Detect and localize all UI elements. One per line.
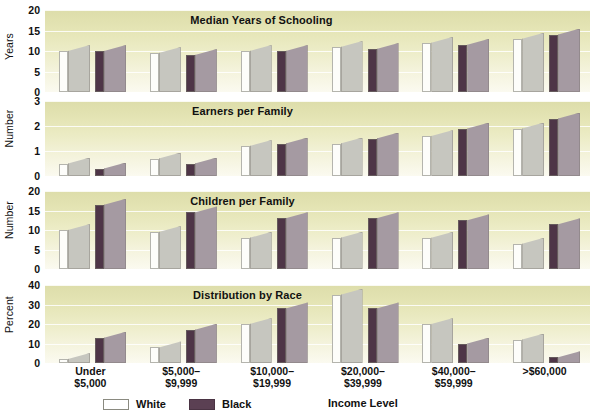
bar-side-face — [467, 214, 489, 269]
y-tick-label: 40 — [28, 280, 40, 291]
y-axis-title-3: Number — [0, 191, 18, 269]
bar-black — [458, 45, 489, 92]
bar-front-face — [332, 238, 341, 269]
x-label-line-2: $5,000 — [45, 378, 136, 390]
gridline — [45, 191, 590, 192]
bar-black — [95, 205, 126, 269]
bar-front-face — [150, 232, 159, 269]
bar-black — [95, 169, 126, 177]
legend-label-white: White — [136, 398, 166, 410]
bar-side-face — [104, 163, 126, 177]
bar-white — [422, 43, 453, 92]
bar-black — [277, 218, 308, 269]
panel-title-2: Earners per Family — [45, 105, 590, 117]
bar-white — [422, 324, 453, 363]
x-axis-label-6: >$60,000 — [499, 366, 590, 378]
y-tick-label: 1 — [34, 146, 40, 157]
bar-side-face — [558, 113, 580, 177]
bar-black — [549, 35, 580, 92]
bar-white — [59, 164, 90, 177]
y-tick-label: 5 — [34, 244, 40, 255]
bar-front-face — [241, 51, 250, 92]
x-label-line-1: >$60,000 — [523, 365, 567, 377]
gridline — [45, 10, 590, 11]
bar-white — [59, 230, 90, 269]
x-label-line-2: $19,999 — [227, 378, 318, 390]
bar-front-face — [458, 220, 467, 269]
bar-side-face — [104, 45, 126, 92]
bar-front-face — [368, 139, 377, 177]
x-axis-category-labels: Under$5,000$5,000–$9,999$10,000–$19,999$… — [45, 366, 590, 396]
gridline — [45, 101, 590, 102]
bar-white — [332, 295, 363, 363]
chart-legend: WhiteBlack — [103, 396, 267, 412]
bar-side-face — [522, 123, 544, 177]
panel-2: Number3210Earners per Family — [0, 101, 590, 176]
bar-side-face — [159, 153, 181, 177]
x-label-line-1: Under — [75, 365, 105, 377]
bar-front-face — [513, 39, 522, 92]
bar-black — [277, 308, 308, 363]
bar-side-face — [341, 138, 363, 177]
bar-white — [332, 47, 363, 92]
bar-side-face — [341, 232, 363, 269]
bar-black — [549, 224, 580, 269]
y-axis-title-4: Percent — [0, 285, 18, 363]
plot-area-2: Earners per Family — [45, 101, 590, 176]
bar-white — [241, 324, 272, 363]
bar-black — [95, 338, 126, 363]
y-tick-label: 2 — [34, 121, 40, 132]
bar-front-face — [95, 169, 104, 177]
bar-side-face — [431, 37, 453, 92]
y-tick-label: 10 — [28, 225, 40, 236]
x-axis-label-5: $40,000–$59,999 — [408, 366, 499, 389]
bar-front-face — [513, 244, 522, 269]
bar-black — [458, 220, 489, 269]
bar-front-face — [422, 43, 431, 92]
bar-front-face — [458, 45, 467, 92]
bar-side-face — [159, 226, 181, 269]
bar-front-face — [422, 238, 431, 269]
bar-black — [186, 212, 217, 269]
panel-4: Percent403020100Distribution by Race — [0, 285, 590, 363]
bar-black — [458, 129, 489, 177]
gridline — [45, 305, 590, 306]
bar-side-face — [286, 45, 308, 92]
x-label-line-1: $10,000– — [250, 365, 294, 377]
x-axis-label-1: Under$5,000 — [45, 366, 136, 389]
x-axis-title: Income Level — [328, 397, 398, 409]
plot-area-3: Children per Family — [45, 191, 590, 269]
bar-side-face — [431, 232, 453, 269]
bar-black — [95, 51, 126, 92]
bar-front-face — [277, 308, 286, 363]
bar-white — [150, 159, 181, 177]
bar-black — [368, 218, 399, 269]
gridline — [45, 344, 590, 345]
bar-side-face — [558, 218, 580, 269]
bar-side-face — [250, 318, 272, 363]
y-axis-title-1: Years — [0, 10, 18, 92]
bar-side-face — [522, 334, 544, 363]
bar-front-face — [513, 340, 522, 363]
bar-front-face — [368, 218, 377, 269]
bar-black — [277, 51, 308, 92]
panel-1: Years20151050Median Years of Schooling — [0, 10, 590, 92]
bar-white — [422, 136, 453, 176]
bar-side-face — [431, 130, 453, 176]
gridline — [45, 324, 590, 325]
bar-front-face — [549, 35, 558, 92]
plot-area-1: Median Years of Schooling — [45, 10, 590, 92]
bar-white — [513, 39, 544, 92]
bar-front-face — [241, 324, 250, 363]
y-axis-ticks-2: 3210 — [18, 101, 42, 176]
bar-side-face — [467, 123, 489, 177]
gridline — [45, 285, 590, 286]
bar-black — [368, 308, 399, 363]
bar-black — [458, 344, 489, 364]
bar-white — [241, 146, 272, 176]
bar-side-face — [195, 206, 217, 269]
bar-side-face — [377, 43, 399, 92]
bar-front-face — [368, 308, 377, 363]
legend-label-black: Black — [222, 398, 251, 410]
bar-front-face — [422, 324, 431, 363]
